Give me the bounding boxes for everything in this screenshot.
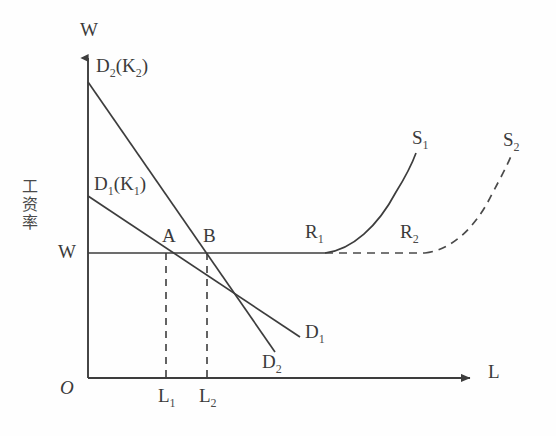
point-r2-label: R2 [400,222,419,245]
point-r1-label: R1 [305,222,324,245]
s1-letter: S [412,127,423,148]
point-a-label: A [162,226,176,245]
economics-diagram-figure: W 工资率 W O L D2(K2) D1(K1) A B R1 R2 S1 S… [0,0,556,436]
d1-end-letter: D [305,321,319,342]
d2-paren-close: ) [142,55,148,76]
s2-letter: S [503,129,514,150]
supply-curve-s2-label: S2 [503,130,520,153]
demand-curve-d2-origin-label: D2(K2) [96,56,148,79]
l2-letter: L [199,385,211,406]
s1-subscript: 1 [423,138,429,152]
d2-end-letter: D [262,351,276,372]
x-tick-label-l1: L1 [158,386,176,409]
r2-subscript: 2 [413,232,419,246]
d1-end-subscript: 1 [319,332,325,346]
l2-subscript: 2 [211,396,217,410]
d1-letter: D [94,173,108,194]
d2-letter: D [96,55,110,76]
y-axis-side-label: 工资率 [20,178,36,232]
r1-subscript: 1 [318,232,324,246]
d1-paren-close: ) [140,173,146,194]
wage-level-label: W [58,242,76,261]
y-axis-label: W [80,20,98,39]
s2-subscript: 2 [514,140,520,154]
demand-curve-d1-label: D1 [305,322,325,345]
l1-subscript: 1 [170,396,176,410]
demand-curve-d2-label: D2 [262,352,282,375]
demand-curve-d2 [88,82,275,352]
point-b-label: B [203,226,216,245]
d2-end-subscript: 2 [276,362,282,376]
r2-letter: R [400,221,413,242]
demand-curve-d1-origin-label: D1(K1) [94,174,146,197]
d2-paren-open: (K [116,55,136,76]
x-axis-label: L [488,362,500,381]
supply-curve-s1-label: S1 [412,128,429,151]
origin-label: O [60,378,74,397]
r1-letter: R [305,221,318,242]
d1-paren-open: (K [114,173,134,194]
l1-letter: L [158,385,170,406]
demand-curve-d1 [88,196,300,337]
supply-curve-s2 [425,156,511,253]
x-tick-label-l2: L2 [199,386,217,409]
